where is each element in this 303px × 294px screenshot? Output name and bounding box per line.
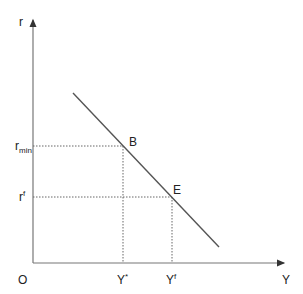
yf-label: Yf	[166, 272, 177, 287]
point-b-label: B	[129, 135, 137, 149]
ystar-label: Y*	[117, 272, 128, 287]
rmin-label: rmin	[15, 139, 32, 155]
y-axis-label: r	[19, 15, 23, 29]
rf-label: rf	[19, 189, 26, 204]
x-axis-label: Y	[282, 273, 290, 287]
point-e-label: E	[173, 183, 181, 197]
diagram-canvas: r Y O B E rmin rf Y* Yf	[0, 0, 303, 294]
downward-curve	[73, 93, 219, 247]
origin-label: O	[18, 273, 27, 287]
